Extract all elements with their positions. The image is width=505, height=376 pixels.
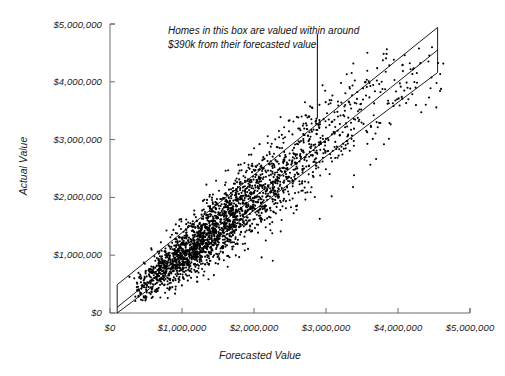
plot-canvas (0, 0, 505, 376)
y-tick-label-5: $5,000,000 (24, 19, 102, 30)
y-tick-label-3: $3,000,000 (24, 134, 102, 145)
scatter-chart-figure: $0 $1,000,000 $2,000,000 $3,000,000 $4,0… (0, 0, 505, 376)
x-tick-label-5: $5,000,000 (425, 322, 505, 333)
y-axis-title: Actual Value (17, 121, 29, 211)
annotation-line-2: $390k from their forecasted value (168, 38, 418, 52)
annotation-line-1: Homes in this box are valued within arou… (168, 24, 418, 38)
x-axis-title: Forecasted Value (180, 349, 340, 361)
y-tick-label-4: $4,000,000 (24, 76, 102, 87)
x-tick-label-0: $0 (86, 322, 134, 333)
y-tick-label-1: $1,000,000 (24, 249, 102, 260)
y-tick-label-0: $0 (24, 307, 102, 318)
band-annotation: Homes in this box are valued within arou… (168, 24, 418, 51)
y-tick-label-2: $2,000,000 (24, 191, 102, 202)
